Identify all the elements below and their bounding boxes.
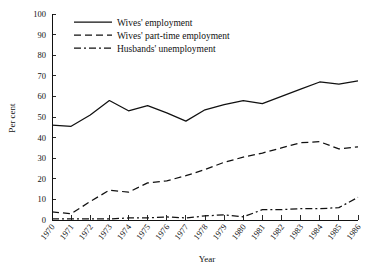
- y-tick-label: 100: [33, 9, 46, 19]
- y-tick-label: 10: [38, 194, 47, 204]
- legend-label: Husbands' unemployment: [117, 44, 216, 54]
- chart-legend: Wives' employmentWives' part-time employ…: [74, 18, 230, 54]
- x-tick-label: 1980: [229, 222, 247, 242]
- x-tick-label: 1984: [306, 221, 325, 241]
- y-tick-label: 60: [38, 91, 47, 101]
- series-line-dashdot: [52, 197, 358, 219]
- x-tick-label: 1981: [249, 222, 267, 242]
- x-tick-label: 1982: [268, 222, 286, 242]
- x-tick-label: 1976: [153, 222, 171, 242]
- y-tick-label: 50: [38, 112, 47, 122]
- x-tick-label: 1974: [115, 221, 134, 241]
- chart-container: 0102030405060708090100 19701971197219731…: [0, 0, 381, 268]
- y-axis-title: Per cent: [7, 103, 17, 133]
- x-tick-label: 1971: [57, 222, 75, 242]
- series-line-dashed: [52, 142, 358, 214]
- x-tick-label: 1983: [287, 222, 305, 242]
- x-tick-label: 1986: [344, 222, 362, 242]
- line-chart: 0102030405060708090100 19701971197219731…: [0, 0, 381, 268]
- series-line-solid: [52, 81, 358, 126]
- x-tick-label: 1972: [76, 222, 94, 242]
- x-tick-label: 1973: [96, 222, 114, 242]
- series-lines: [52, 81, 358, 219]
- y-axis-ticks: [52, 14, 56, 220]
- y-tick-label: 90: [38, 30, 47, 40]
- y-tick-label: 20: [38, 174, 47, 184]
- x-axis-tick-labels: 1970197119721973197419751976197719781979…: [38, 221, 362, 241]
- y-axis-tick-labels: 0102030405060708090100: [33, 9, 46, 225]
- x-tick-label: 1985: [325, 222, 343, 242]
- y-tick-label: 30: [38, 153, 47, 163]
- x-tick-label: 1975: [134, 222, 152, 242]
- x-tick-label: 1977: [172, 222, 190, 242]
- y-tick-label: 70: [38, 71, 47, 81]
- x-tick-label: 1970: [38, 222, 56, 242]
- x-tick-label: 1978: [191, 222, 209, 242]
- y-tick-label: 0: [42, 215, 46, 225]
- legend-label: Wives' employment: [117, 18, 193, 28]
- x-axis-title: Year: [199, 254, 216, 264]
- legend-label: Wives' part-time employment: [117, 31, 230, 41]
- x-tick-label: 1979: [210, 222, 228, 242]
- y-tick-label: 80: [38, 50, 47, 60]
- y-tick-label: 40: [38, 133, 47, 143]
